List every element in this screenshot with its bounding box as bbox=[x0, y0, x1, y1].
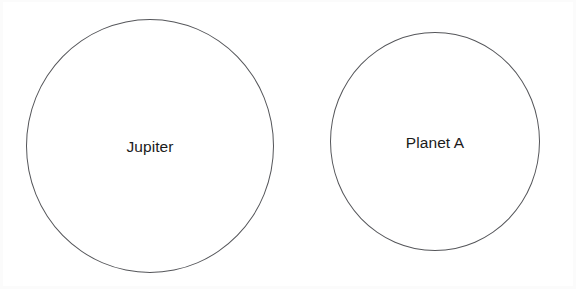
planet-circle-planet-a: Planet A bbox=[330, 32, 540, 251]
planet-label-jupiter: Jupiter bbox=[126, 139, 173, 155]
planet-label-planet-a: Planet A bbox=[406, 135, 465, 151]
scan-edge-left bbox=[0, 0, 3, 289]
diagram-canvas: Jupiter Planet A bbox=[0, 0, 576, 289]
scan-edge-top bbox=[0, 0, 576, 2]
planet-circle-jupiter: Jupiter bbox=[26, 19, 274, 273]
